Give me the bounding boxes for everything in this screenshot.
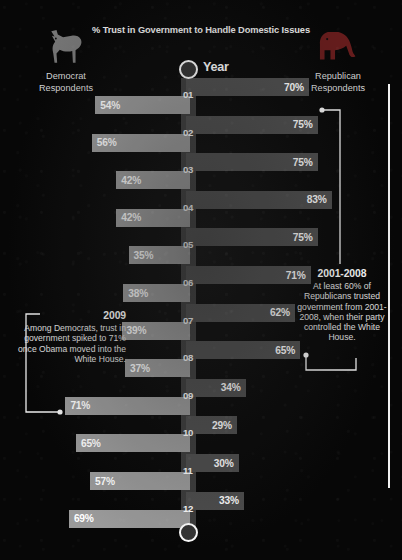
- democrat-bar-value: 42%: [116, 212, 146, 223]
- republican-bar-value: 65%: [270, 345, 300, 356]
- democrat-bar-value: 42%: [116, 175, 146, 186]
- democrat-bar-value: 69%: [69, 513, 99, 524]
- year-label: 06: [183, 277, 193, 288]
- democrat-bar-value: 56%: [92, 137, 122, 148]
- republican-bar: 71%: [186, 266, 311, 284]
- republican-bar: 83%: [186, 191, 332, 209]
- republican-bar: 29%: [186, 416, 237, 434]
- republican-bar: 65%: [186, 341, 300, 359]
- callout-2009-body: Among Democrats, trust in government spi…: [14, 323, 126, 364]
- year-label: 02: [183, 127, 193, 138]
- democrat-bar: 71%: [65, 397, 190, 415]
- democrat-bar-value: 54%: [95, 100, 125, 111]
- democrat-bar: 35%: [129, 246, 190, 264]
- axis-bottom-knob-icon: [179, 523, 198, 542]
- year-label: 05: [183, 239, 193, 250]
- year-label: 11: [183, 465, 193, 476]
- axis-top-knob-icon: [179, 60, 198, 79]
- callout-2001-2008-body: At least 60% of Republicans trusted gove…: [296, 281, 388, 343]
- democrat-bar-value: 39%: [122, 325, 152, 336]
- year-label: 03: [183, 164, 193, 175]
- bar-row: 70%54%01: [0, 78, 402, 115]
- democrat-bar: 42%: [116, 171, 190, 189]
- democrat-bar: 42%: [116, 209, 190, 227]
- democrat-bar: 57%: [90, 472, 190, 490]
- republican-bar-value: 33%: [214, 495, 244, 506]
- democrat-bar-value: 65%: [76, 438, 106, 449]
- republican-bar-value: 70%: [279, 82, 309, 93]
- callout-2001-2008: 2001-2008 At least 60% of Republicans tr…: [296, 268, 388, 343]
- right-margin-rule: [388, 84, 390, 488]
- year-label: 04: [183, 202, 193, 213]
- democrat-bar-value: 57%: [90, 476, 120, 487]
- republican-bar: 75%: [186, 228, 318, 246]
- republican-bar: 34%: [186, 379, 246, 397]
- democrat-bar: 65%: [76, 434, 190, 452]
- republican-bar-value: 62%: [265, 307, 295, 318]
- democrat-bar: 56%: [92, 134, 190, 152]
- year-label: 09: [183, 390, 193, 401]
- year-label: 10: [183, 427, 193, 438]
- republican-bar-value: 83%: [302, 194, 332, 205]
- bar-row: 83%42%04: [0, 191, 402, 228]
- callout-2001-2008-title: 2001-2008: [296, 268, 388, 279]
- bar-row: 75%56%02: [0, 116, 402, 153]
- republican-bar: 30%: [186, 454, 239, 472]
- republican-bar-value: 29%: [207, 420, 237, 431]
- bar-row: 29%65%10: [0, 416, 402, 453]
- republican-bar-value: 75%: [288, 119, 318, 130]
- callout-2009-title: 2009: [14, 310, 126, 321]
- democrat-bar-value: 35%: [129, 250, 159, 261]
- democrat-bar: 38%: [123, 284, 190, 302]
- democrat-bar: 37%: [125, 359, 190, 377]
- bar-row: 75%35%05: [0, 228, 402, 265]
- republican-bar-value: 75%: [288, 232, 318, 243]
- year-label: 12: [183, 503, 193, 514]
- republican-bar-value: 34%: [216, 382, 246, 393]
- bar-row: 30%57%11: [0, 454, 402, 491]
- democrat-bar-value: 71%: [65, 400, 95, 411]
- republican-bar: 33%: [186, 492, 244, 510]
- democrat-bar-value: 37%: [125, 363, 155, 374]
- callout-2009: 2009 Among Democrats, trust in governmen…: [14, 310, 126, 364]
- year-label: 07: [183, 315, 193, 326]
- democrat-bar: 69%: [69, 510, 190, 528]
- democrat-bar: 54%: [95, 96, 190, 114]
- democrat-bar-value: 38%: [123, 288, 153, 299]
- bar-row: 34%71%09: [0, 379, 402, 416]
- year-label: 01: [183, 89, 193, 100]
- republican-bar-value: 30%: [209, 458, 239, 469]
- year-label: 08: [183, 352, 193, 363]
- republican-bar-value: 75%: [288, 157, 318, 168]
- republican-bar: 75%: [186, 153, 318, 171]
- republican-bar: 62%: [186, 304, 295, 322]
- bar-row: 75%42%03: [0, 153, 402, 190]
- bar-row: 33%69%12: [0, 492, 402, 529]
- democrat-bar: 39%: [122, 322, 190, 340]
- republican-bar: 75%: [186, 116, 318, 134]
- republican-bar: 70%: [186, 78, 309, 96]
